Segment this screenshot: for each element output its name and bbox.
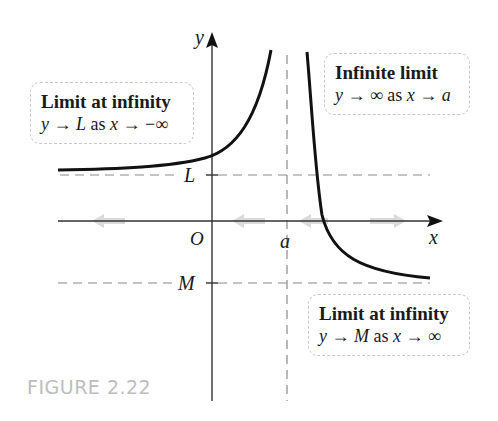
annotation-expression: y → M as x → ∞ — [319, 325, 459, 347]
expr-text: → ∞ as — [343, 85, 407, 105]
expr-var: a — [442, 85, 451, 105]
annotation-limit-at-pos-infinity: Limit at infinity y → M as x → ∞ — [308, 294, 470, 356]
expr-var: x — [407, 85, 415, 105]
annotation-expression: y → ∞ as x → a — [335, 84, 459, 106]
expr-text: → — [327, 326, 354, 346]
origin-label: O — [190, 228, 204, 249]
annotation-title: Limit at infinity — [41, 91, 183, 113]
annotation-expression: y → L as x → −∞ — [41, 113, 183, 135]
expr-var: M — [354, 326, 369, 346]
expr-text: → — [415, 85, 442, 105]
y-axis-label: y — [193, 26, 204, 49]
level-L-label: L — [183, 164, 195, 186]
expr-var: x — [393, 326, 401, 346]
expr-text: as — [86, 114, 110, 134]
expr-var: L — [76, 114, 86, 134]
annotation-title: Limit at infinity — [319, 303, 459, 325]
expr-var: y — [41, 114, 49, 134]
asymptote-a-label: a — [280, 230, 290, 252]
annotation-infinite-limit: Infinite limit y → ∞ as x → a — [324, 53, 470, 115]
expr-text: → −∞ — [118, 114, 168, 134]
expr-text: → ∞ — [401, 326, 441, 346]
figure-caption-label: FIGURE 2.22 — [27, 376, 151, 398]
expr-var: y — [335, 85, 343, 105]
expr-var: y — [319, 326, 327, 346]
annotation-limit-at-neg-infinity: Limit at infinity y → L as x → −∞ — [30, 82, 194, 144]
level-M-label: M — [177, 272, 196, 294]
annotation-title: Infinite limit — [335, 62, 459, 84]
x-axis-label: x — [428, 226, 438, 248]
expr-text: → — [49, 114, 76, 134]
expr-var: x — [110, 114, 118, 134]
expr-text: as — [369, 326, 393, 346]
